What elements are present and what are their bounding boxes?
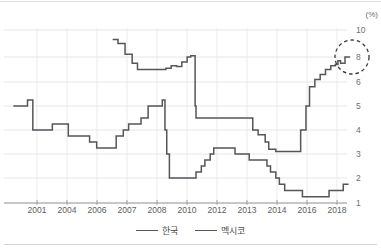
x-tick-label-2016: 2016 — [290, 205, 324, 215]
legend-item-0[interactable]: 한국 — [136, 224, 178, 237]
legend-line-swatch-icon — [136, 230, 158, 231]
x-tick-label-2014: 2014 — [260, 205, 294, 215]
y-tick-label-1: 1 — [356, 198, 372, 208]
x-tick-label-2012: 2012 — [200, 205, 234, 215]
x-tick-label-2013: 2013 — [230, 205, 264, 215]
bottom-divider — [4, 244, 377, 245]
x-tick-label-2010: 2010 — [170, 205, 204, 215]
vertical-gridlines — [37, 28, 337, 203]
x-tick-label-2006: 2006 — [80, 205, 114, 215]
series-line-1 — [113, 39, 350, 151]
x-tick-label-2008: 2008 — [140, 205, 174, 215]
y-tick-label-6: 6 — [356, 77, 372, 87]
horizontal-gridlines — [4, 30, 347, 203]
x-tick-label-2001: 2001 — [20, 205, 54, 215]
legend-label: 한국 — [162, 224, 178, 237]
y-tick-label-4: 4 — [356, 125, 372, 135]
y-tick-label-8: 8 — [356, 52, 372, 62]
y-tick-label-3: 3 — [356, 149, 372, 159]
y-tick-label-5: 5 — [356, 101, 372, 111]
line-chart: (%) 108654321 20012004200620072008201020… — [0, 0, 381, 250]
y-axis-unit-label: (%) — [366, 10, 378, 19]
data-series-lines — [13, 39, 349, 196]
x-tick-label-2004: 2004 — [50, 205, 84, 215]
legend-label: 멕시코 — [221, 224, 245, 237]
series-line-0 — [13, 100, 348, 197]
legend-line-swatch-icon — [195, 230, 217, 231]
y-tick-label-10: 10 — [356, 25, 372, 35]
y-tick-label-2: 2 — [356, 173, 372, 183]
chart-legend: 한국멕시코 — [0, 224, 381, 237]
x-tick-label-2018: 2018 — [320, 205, 354, 215]
legend-item-1[interactable]: 멕시코 — [195, 224, 245, 237]
x-tick-label-2007: 2007 — [110, 205, 144, 215]
